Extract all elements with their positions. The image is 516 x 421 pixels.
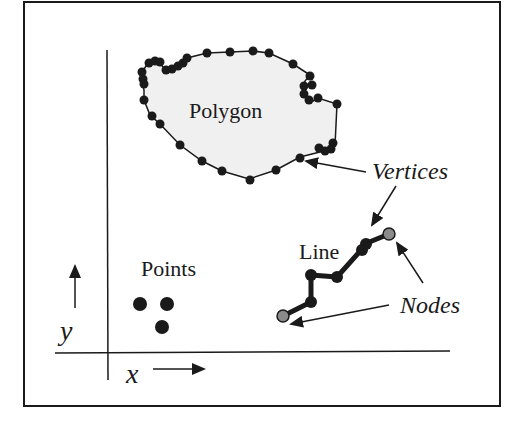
line-start-node <box>277 310 289 322</box>
nodes-arrow-end <box>397 243 423 283</box>
vertices-arrow-line <box>372 186 396 225</box>
x-axis-label: x <box>125 358 139 389</box>
x-axis-line <box>55 351 450 353</box>
polygon-label: Polygon <box>189 98 262 123</box>
line-label: Line <box>299 239 339 264</box>
vertices-annotation: Vertices <box>372 158 448 184</box>
vertices-arrow-polygon <box>306 161 366 172</box>
y-axis-label: y <box>57 315 73 346</box>
y-axis-line <box>107 50 108 380</box>
point-markers <box>133 297 174 334</box>
nodes-annotation: Nodes <box>399 292 460 318</box>
nodes-arrow-start <box>291 305 389 324</box>
polygon-feature: Polygon <box>138 47 342 185</box>
points-label: Points <box>141 256 196 281</box>
points-feature: Points <box>133 256 196 334</box>
vector-data-diagram: y x Polygon Line <box>0 0 516 421</box>
line-end-node <box>383 228 395 240</box>
